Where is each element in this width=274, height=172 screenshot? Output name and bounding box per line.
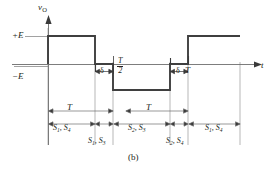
voltage-axis	[45, 15, 51, 145]
switch-label-s1-s3: S1, S3	[88, 137, 106, 145]
period-dimension-right	[126, 109, 188, 113]
x-axis-label: t	[261, 61, 264, 70]
half-period-denominator: 2	[117, 67, 123, 75]
delta-label-2: δ	[176, 67, 180, 75]
voltage-axis-arrowhead	[45, 15, 51, 24]
period-label-right: T	[146, 103, 151, 112]
level-label-positive: +E	[12, 31, 24, 40]
switch-label-s2-s4: S2, S4	[166, 137, 184, 145]
period-label-top: T	[185, 66, 190, 75]
switch-dimension-s24	[170, 122, 188, 126]
switch-label-s1-s4-second: S1, S4	[205, 124, 223, 132]
level-label-negative: −E	[12, 72, 24, 81]
y-axis-label-subscript: O	[42, 6, 47, 13]
waveform-svg	[0, 0, 274, 172]
switch-dimension-s13	[95, 122, 113, 126]
delta-label-1: δ	[100, 67, 104, 75]
level-reference-rules	[12, 37, 48, 67]
half-period-label: T 2	[117, 57, 123, 76]
half-period-numerator: T	[117, 57, 123, 65]
period-dimension-left	[48, 109, 113, 113]
figure-caption: (b)	[128, 153, 139, 162]
waveform-figure	[0, 0, 274, 172]
delta-dimension-1	[95, 69, 113, 73]
switch-label-s2-s3: S2, S3	[128, 124, 146, 132]
y-axis-label: vO	[38, 3, 47, 12]
switch-label-s1-s4-first: S1, S4	[53, 124, 71, 132]
period-label-left: T	[67, 103, 72, 112]
output-voltage-trace	[48, 36, 240, 90]
time-axis	[12, 61, 262, 67]
